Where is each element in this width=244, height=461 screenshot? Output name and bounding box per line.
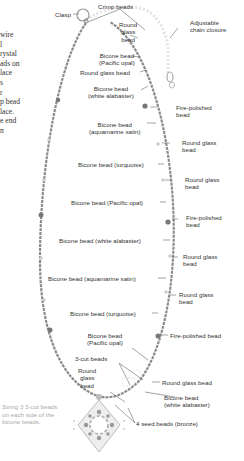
label-line: Round glass [185,176,219,183]
label-bicone-white-2: Bicone bead (white alabaster) [59,237,141,244]
label-bicone-turquoise-2: Bicone bead (turquoise) [70,310,136,317]
label-line: Bicone bead [89,121,141,128]
label-round-glass-r5: Round glass bead [162,379,212,386]
label-round-glass-r4: Round glass bead [179,291,213,306]
label-line: bead [183,260,217,267]
label-fire-polished-2: Fire-polished bead [186,214,222,229]
label-bicone-aqua-2: Bicone bead (aquamarine satin) [48,275,136,282]
label-round-glass-1: Round glass bead [80,69,130,76]
label-round-glass-r2: Round glass bead [185,176,219,191]
label-bicone-turquoise-1: Bicone bead (turquoise) [78,161,144,168]
label-line: Round [78,367,96,374]
label-seed-beads: 4 seed beads (bronze) [136,420,198,427]
label-line: bead [78,382,96,389]
beaded-pendant [73,394,125,452]
label-line: glass [78,374,96,381]
label-line: Round glass [183,253,217,260]
label-bicone-white-3: Bicone bead (white alabaster) [164,394,210,409]
label-line: (aquamarine satin) [89,128,141,135]
label-line: Round glass [179,291,213,298]
label-line: bead [186,221,222,228]
label-line: bead [176,111,212,118]
instruction-note: String 3 3-cut beads on each side of the… [2,403,57,426]
label-bicone-pacific-3: Bicone bead (Pacific opal) [87,332,123,347]
label-line: Bicone bead [88,85,134,92]
label-three-cut-beads: 3-cut beads [75,355,107,362]
label-line: glass [119,28,137,35]
label-round-glass-r3: Round glass bead [183,253,217,268]
label-line: bead [182,146,216,153]
label-line: bead [119,36,137,43]
label-bicone-white-1: Bicone bead (white alabaster) [88,85,134,100]
label-round-glass-r1: Round glass bead [182,139,216,154]
label-line: Fire-polished [186,214,222,221]
label-bicone-pacific-1: Bicone bead (Pacific opal) [99,52,135,67]
label-line: (Pacific opal) [87,339,123,346]
label-line: (white alabaster) [88,92,134,99]
label-bicone-aqua-1: Bicone bead (aquamarine satin) [89,121,141,136]
label-crimp-beads: Crimp beads [98,3,133,10]
label-line: Bicone bead [99,52,135,59]
label-round-glass-top: Round glass bead [119,21,137,43]
label-fire-polished-1: Fire-polished bead [176,104,212,119]
label-line: chain closure [190,26,226,33]
label-bicone-pacific-2: Bicone bead (Pacific opal) [71,199,143,206]
label-line: Fire-polished [176,104,212,111]
label-line: Round [119,21,137,28]
label-line: Bicone bead [164,394,210,401]
label-round-glass-bottom: Round glass bead [78,367,96,389]
label-line: Adjustable [190,19,226,26]
label-line: bead [185,183,219,190]
label-clasp: Clasp [55,11,71,18]
note-line: bicone beads. [2,418,57,426]
note-line: String 3 3-cut beads [2,403,57,411]
label-line: bead [179,298,213,305]
note-line: on each side of the [2,411,57,419]
label-fire-polished-3: Fire-polished bead [170,332,221,339]
label-line: Round glass [182,139,216,146]
lobster-clasp-icon [167,72,173,82]
label-adjustable-chain: Adjustable chain closure [190,19,226,34]
label-line: (Pacific opal) [99,59,135,66]
jump-ring-icon [170,82,175,88]
label-line: Bicone bead [87,332,123,339]
label-line: (white alabaster) [164,401,210,408]
three-cut-bead-guides [122,370,140,386]
